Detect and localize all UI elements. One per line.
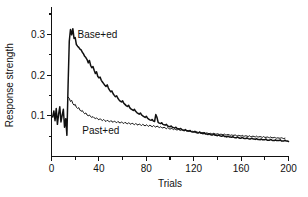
x-tick-label: 0 xyxy=(49,163,55,174)
response-strength-line-chart: 0.10.20.3 04080120160200 Base+edPast+ed … xyxy=(0,0,308,197)
y-axis-title: Response strength xyxy=(4,43,15,127)
x-tick-label: 200 xyxy=(280,163,297,174)
x-axis-ticks xyxy=(52,157,289,162)
chart-figure: 0.10.20.3 04080120160200 Base+edPast+ed … xyxy=(0,0,308,197)
y-tick-label: 0.3 xyxy=(31,29,45,40)
y-axis-tick-labels: 0.10.20.3 xyxy=(31,29,45,121)
y-tick-label: 0.2 xyxy=(31,70,45,81)
y-axis-ticks xyxy=(47,14,52,136)
series-annotations: Base+edPast+ed xyxy=(78,29,120,136)
x-tick-label: 160 xyxy=(233,163,250,174)
y-tick-label: 0.1 xyxy=(31,110,45,121)
x-tick-label: 40 xyxy=(93,163,105,174)
x-axis-tick-labels: 04080120160200 xyxy=(49,163,298,174)
series-annotation-past-ed: Past+ed xyxy=(82,125,119,136)
x-axis-title: Trials xyxy=(158,178,182,189)
x-tick-label: 120 xyxy=(185,163,202,174)
x-tick-label: 80 xyxy=(141,163,153,174)
series-annotation-base-ed: Base+ed xyxy=(78,29,118,40)
